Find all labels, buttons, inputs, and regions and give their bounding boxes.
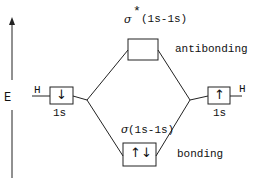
bonding-label: bonding bbox=[177, 148, 223, 160]
left-orbital-label: 1s bbox=[53, 107, 66, 119]
left-electron-arrow-icon: ↓ bbox=[56, 89, 67, 101]
antibonding-label: antibonding bbox=[175, 43, 248, 55]
right-orbital-label: 1s bbox=[213, 107, 226, 119]
left-atom-label: H bbox=[34, 84, 41, 96]
antibonding-orbital: (1s-1s) bbox=[141, 13, 187, 25]
antibonding-star: * bbox=[133, 6, 141, 18]
right-atom-label: H bbox=[239, 83, 246, 95]
bonding-orbital: (1s-1s) bbox=[128, 124, 174, 136]
right-electron-arrow-icon: ↑ bbox=[214, 89, 225, 101]
energy-axis-label: E bbox=[4, 92, 11, 104]
antibonding-sigma: σ bbox=[124, 14, 132, 26]
bonding-electrons-arrow-icon: ↑↓ bbox=[130, 147, 152, 159]
